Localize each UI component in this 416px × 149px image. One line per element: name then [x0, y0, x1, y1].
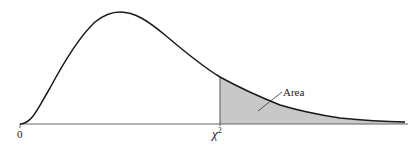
area-label: Area — [283, 87, 304, 98]
shaded-tail-area — [220, 77, 405, 124]
density-curve — [20, 12, 405, 124]
critical-value-label: χ2 — [212, 127, 222, 140]
origin-label: 0 — [17, 129, 23, 140]
chi-superscript: 2 — [218, 126, 222, 135]
chi-square-diagram — [0, 0, 416, 149]
